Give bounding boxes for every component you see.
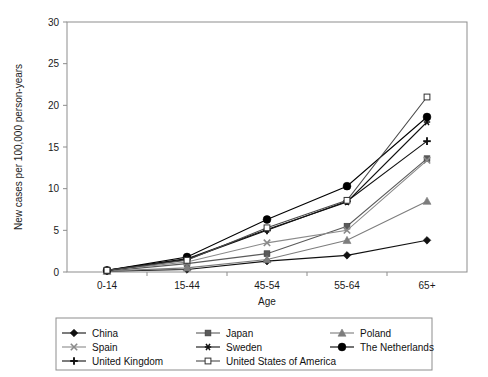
legend-label: United Kingdom <box>92 356 163 367</box>
y-axis-ticks: 051015202530 <box>48 17 67 278</box>
x-tick-label: 45-54 <box>254 280 280 291</box>
y-tick-label: 0 <box>53 267 59 278</box>
chart-svg: 051015202530 0-1415-4445-5455-6465+ New … <box>0 0 488 377</box>
y-tick-label: 25 <box>48 58 60 69</box>
legend-label: Spain <box>92 342 118 353</box>
y-tick-label: 20 <box>48 100 60 111</box>
legend-label: The Netherlands <box>360 342 434 353</box>
x-axis-ticks: 0-1415-4445-5455-6465+ <box>97 272 436 291</box>
legend-label: Sweden <box>226 342 262 353</box>
y-axis-title: New cases per 100,000 person-years <box>13 64 24 230</box>
x-tick-label: 55-64 <box>334 280 360 291</box>
line-chart: 051015202530 0-1415-4445-5455-6465+ New … <box>0 0 488 377</box>
x-tick-label: 0-14 <box>97 280 117 291</box>
y-tick-label: 30 <box>48 17 60 28</box>
legend-label: Japan <box>226 328 253 339</box>
y-tick-label: 15 <box>48 142 60 153</box>
plot-frame <box>67 22 467 272</box>
legend-label: United States of America <box>226 356 336 367</box>
legend-label: China <box>92 328 119 339</box>
x-tick-label: 65+ <box>419 280 436 291</box>
x-axis-title: Age <box>258 296 276 307</box>
legend-label: Poland <box>360 328 391 339</box>
y-tick-label: 10 <box>48 183 60 194</box>
x-tick-label: 15-44 <box>174 280 200 291</box>
y-tick-label: 5 <box>53 225 59 236</box>
